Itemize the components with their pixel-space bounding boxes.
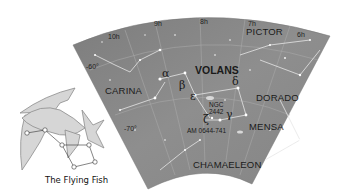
flying-fish-illustration <box>20 88 104 170</box>
star-label-epsilon: ε <box>190 91 196 102</box>
object-am-label: AM 0644-741 <box>187 128 226 135</box>
star-label-zeta: ζ <box>203 114 209 125</box>
am-0644-741-galaxy <box>237 130 243 133</box>
ra-label-10h: 10h <box>108 33 120 40</box>
star-label-gamma: γ <box>226 109 233 120</box>
ra-label-8h: 8h <box>200 18 208 25</box>
constellation-dorado: DORADO <box>256 93 299 103</box>
star-label-delta: δ <box>232 76 239 87</box>
constellation-chamaeleon: CHAMAELEON <box>193 160 262 170</box>
constellation-volans: VOLANS <box>195 65 239 76</box>
ngc-2442-galaxy <box>206 96 214 100</box>
star-label-alpha: α <box>162 68 169 79</box>
object-ngc-number: 2442 <box>209 109 223 116</box>
dec-label-70: -70° <box>124 125 137 132</box>
constellation-mensa: MENSA <box>249 122 284 132</box>
illustration-caption: The Flying Fish <box>45 176 108 185</box>
dec-label-60: -60° <box>86 63 99 70</box>
constellation-carina: CARINA <box>105 86 142 96</box>
constellation-pictor: PICTOR <box>246 27 283 37</box>
ra-label-6h: 6h <box>297 31 305 38</box>
star-label-beta: β <box>179 80 185 91</box>
ra-label-9h: 9h <box>154 20 162 27</box>
